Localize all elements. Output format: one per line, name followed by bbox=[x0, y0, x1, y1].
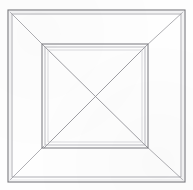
nested-square-frame-drawing: Nested square frame perspective line dra… bbox=[0, 0, 193, 190]
drawing-canvas: Nested square frame perspective line dra… bbox=[0, 0, 193, 190]
